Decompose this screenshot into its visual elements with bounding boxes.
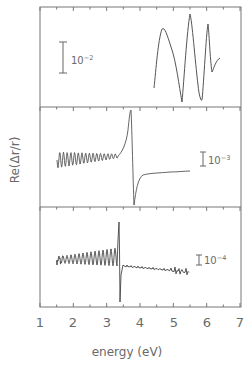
middle-panel-curve bbox=[57, 110, 190, 205]
scale-bar-top bbox=[59, 42, 67, 73]
x-tick-7: 7 bbox=[236, 315, 244, 330]
top-panel-curve bbox=[154, 14, 220, 102]
scale-label-middle: 10−3 bbox=[208, 154, 230, 166]
y-axis-label: Re(Δr/r) bbox=[8, 137, 22, 184]
scale-bar-bottom bbox=[196, 255, 202, 265]
bottom-panel: 10−4 bbox=[56, 222, 226, 302]
x-tick-5: 5 bbox=[170, 315, 178, 330]
x-axis-label: energy (eV) bbox=[92, 345, 163, 359]
x-tick-1: 1 bbox=[36, 315, 44, 330]
x-tick-4: 4 bbox=[136, 315, 144, 330]
x-tick-6: 6 bbox=[203, 315, 211, 330]
figure: 1 2 3 4 5 6 7 energy (eV) Re(Δr/r) 10−2 … bbox=[0, 0, 250, 369]
bottom-panel-curve bbox=[56, 222, 189, 302]
middle-panel: 10−3 bbox=[57, 110, 230, 205]
x-tick-3: 3 bbox=[103, 315, 111, 330]
scale-label-top: 10−2 bbox=[71, 54, 93, 66]
x-tick-2: 2 bbox=[69, 315, 77, 330]
scale-label-bottom: 10−4 bbox=[204, 254, 226, 266]
scale-bar-middle bbox=[200, 152, 206, 166]
top-panel: 10−2 bbox=[59, 14, 220, 102]
x-tick-labels: 1 2 3 4 5 6 7 bbox=[36, 315, 244, 330]
